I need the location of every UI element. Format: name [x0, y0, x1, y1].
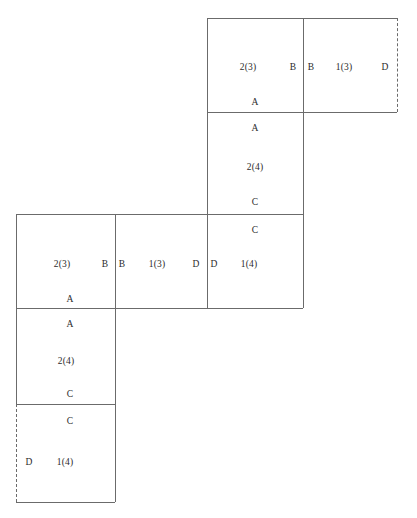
top-right-square-edge-label-right: D	[381, 63, 388, 73]
tile-edge-left-solid	[303, 18, 304, 112]
upper-middle-square-cell-number: 2(4)	[247, 163, 264, 173]
middle-right-square-cell-number: 1(4)	[241, 260, 258, 270]
middle-center-square-edge-label-left: B	[119, 260, 126, 270]
tile-edge-top-solid	[16, 214, 115, 215]
tile-edge-left-dashed	[16, 404, 17, 502]
tile-edge-top-solid	[303, 18, 397, 19]
tile-edge-right-solid	[303, 112, 304, 214]
tile-bottom-left-square	[16, 404, 115, 502]
tile-edge-bottom-solid	[115, 308, 207, 309]
tile-edge-top-solid	[207, 214, 303, 215]
lower-left-square-edge-label-bottom: C	[67, 390, 74, 400]
middle-right-square-edge-label-top: C	[252, 226, 259, 236]
tile-edge-bottom-solid	[303, 112, 397, 113]
top-right-square-edge-label-left: B	[308, 63, 315, 73]
tile-edge-right-solid	[115, 308, 116, 404]
lower-left-square-edge-label-top: A	[66, 320, 73, 330]
tile-edge-top-solid	[115, 214, 207, 215]
bottom-left-square-cell-number: 1(4)	[57, 458, 74, 468]
top-left-square-edge-label-bottom: A	[251, 98, 258, 108]
lower-left-square-cell-number: 2(4)	[58, 357, 75, 367]
top-right-square-cell-number: 1(3)	[336, 63, 353, 73]
middle-left-square-edge-label-bottom: A	[66, 295, 73, 305]
tile-edge-bottom-solid	[16, 502, 115, 503]
tile-edge-right-solid	[303, 214, 304, 308]
middle-right-square-edge-label-left: D	[210, 260, 217, 270]
upper-middle-square-edge-label-top: A	[251, 124, 258, 134]
diagram-canvas: 2(3)BAB1(3)DA2(4)C2(3)BAB1(3)DCD1(4)A2(4…	[0, 0, 417, 518]
middle-left-square-edge-label-right: B	[102, 260, 109, 270]
tile-edge-right-solid	[115, 404, 116, 502]
tile-edge-top-solid	[16, 308, 115, 309]
tile-edge-top-solid	[207, 18, 303, 19]
tile-edge-left-solid	[16, 308, 17, 404]
upper-middle-square-edge-label-bottom: C	[252, 198, 259, 208]
middle-center-square-edge-label-right: D	[192, 260, 199, 270]
bottom-left-square-edge-label-left: D	[25, 458, 32, 468]
tile-edge-left-solid	[207, 18, 208, 112]
tile-edge-left-solid	[115, 214, 116, 308]
tile-edge-top-solid	[207, 112, 303, 113]
tile-edge-top-solid	[16, 404, 115, 405]
bottom-left-square-edge-label-top: C	[67, 417, 74, 427]
tile-edge-bottom-solid	[207, 308, 303, 309]
tile-edge-left-solid	[207, 112, 208, 214]
tile-edge-left-solid	[16, 214, 17, 308]
top-left-square-cell-number: 2(3)	[240, 63, 257, 73]
tile-edge-left-solid	[207, 214, 208, 308]
middle-center-square-cell-number: 1(3)	[149, 260, 166, 270]
middle-left-square-cell-number: 2(3)	[54, 260, 71, 270]
top-left-square-edge-label-right: B	[290, 63, 297, 73]
tile-edge-right-dashed	[397, 18, 398, 112]
